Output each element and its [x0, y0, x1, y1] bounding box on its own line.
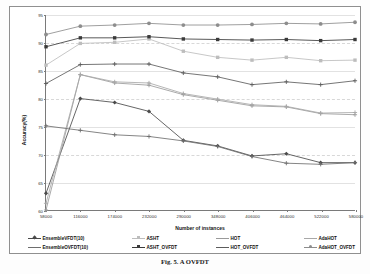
- data-point: [250, 154, 254, 158]
- x-tick-mark: [218, 210, 219, 212]
- data-point: [250, 23, 254, 27]
- data-point: [147, 35, 150, 38]
- legend-marker-icon: [28, 244, 41, 250]
- data-point: [319, 59, 322, 62]
- chart-legend: EnsembleVFDT(10)ASHTHOTAdaHOTEnsembleOVF…: [28, 235, 364, 253]
- x-tick-label: 116000: [73, 214, 87, 219]
- legend-item-ensemblevfdt-10[interactable]: EnsembleVFDT(10): [28, 235, 132, 241]
- legend-item-adahot-ovfdt[interactable]: AdaHOT_OVFDT: [304, 244, 364, 250]
- legend-item-hot[interactable]: HOT: [216, 235, 304, 241]
- series-2: [44, 73, 357, 213]
- data-point: [182, 37, 185, 40]
- data-point: [285, 38, 288, 41]
- data-point: [113, 23, 117, 27]
- data-point: [79, 36, 82, 39]
- data-point: [44, 81, 48, 85]
- x-tick-label: 174000: [108, 214, 123, 219]
- y-tick-label: 65: [38, 181, 43, 186]
- x-tick-label: 348000: [211, 214, 226, 219]
- data-point: [181, 71, 185, 75]
- data-point: [319, 111, 323, 115]
- legend-label: EnsembleOVFDT(10): [43, 245, 88, 250]
- plot-area: 9590858075706560 58000116000174000232000…: [45, 15, 355, 211]
- legend-marker-icon: [304, 244, 317, 250]
- series-line: [46, 22, 355, 34]
- x-tick-label: 406000: [245, 214, 260, 219]
- data-point: [284, 80, 288, 84]
- x-tick-mark: [322, 210, 323, 212]
- data-point: [250, 38, 253, 41]
- data-point: [216, 75, 220, 79]
- x-tick-label: 58000: [40, 214, 52, 219]
- data-point: [147, 62, 151, 66]
- data-point: [353, 20, 357, 24]
- data-point: [113, 62, 117, 66]
- legend-marker-icon: [216, 235, 229, 241]
- data-point: [319, 39, 322, 42]
- data-point: [113, 41, 116, 44]
- data-point: [353, 161, 357, 165]
- data-point: [147, 81, 151, 85]
- data-point: [113, 133, 117, 137]
- data-point: [353, 79, 357, 83]
- legend-marker-icon: [28, 235, 41, 241]
- legend-item-asht-ovfdt[interactable]: ASHT_OVFDT: [132, 244, 216, 250]
- data-point: [113, 36, 116, 39]
- data-point: [284, 21, 288, 25]
- y-axis-title: Accuracy(%): [21, 115, 27, 145]
- legend-item-asht[interactable]: ASHT: [132, 235, 216, 241]
- data-point: [353, 38, 356, 41]
- y-tick-label: 90: [38, 41, 43, 46]
- series-line: [46, 126, 355, 164]
- data-point: [147, 21, 151, 25]
- x-tick-mark: [287, 210, 288, 212]
- data-point: [44, 191, 48, 195]
- y-tick-label: 80: [38, 97, 43, 102]
- figure-container: Accuracy(%) 9590858075706560 58000116000…: [0, 0, 370, 274]
- data-point: [285, 56, 288, 59]
- y-tick-label: 70: [38, 153, 43, 158]
- data-point: [181, 23, 185, 27]
- x-tick-label: 290000: [176, 214, 191, 219]
- legend-marker-icon: [132, 235, 145, 241]
- x-tick-mark: [253, 210, 254, 212]
- series-line: [46, 75, 355, 210]
- data-point: [78, 62, 82, 66]
- data-point: [79, 42, 82, 45]
- legend-label: AdaHOT: [319, 236, 337, 241]
- series-lines: [46, 15, 355, 210]
- legend-label: EnsembleVFDT(10): [43, 236, 85, 241]
- series-line: [46, 75, 355, 204]
- legend-marker-icon: [216, 244, 229, 250]
- legend-item-adahot[interactable]: AdaHOT: [304, 235, 364, 241]
- data-point: [78, 73, 82, 77]
- data-point: [353, 58, 356, 61]
- series-line: [46, 99, 355, 194]
- data-point: [250, 83, 254, 87]
- x-tick-mark: [115, 210, 116, 212]
- data-point: [284, 104, 288, 108]
- series-1: [44, 37, 356, 67]
- legend-row: EnsembleOVFDT(10)ASHT_OVFDTHOT_OVFDTAdaH…: [28, 244, 364, 250]
- data-point: [216, 144, 220, 148]
- series-6: [44, 62, 357, 87]
- legend-label: AdaHOT_OVFDT: [319, 245, 356, 250]
- legend-item-hot-ovfdt[interactable]: HOT_OVFDT: [216, 244, 304, 250]
- x-tick-label: 580000: [349, 214, 364, 219]
- x-axis-title: Number of instances: [45, 225, 355, 231]
- y-tick-label: 95: [38, 13, 43, 18]
- data-point: [216, 38, 219, 41]
- legend-marker-icon: [132, 244, 145, 250]
- data-point: [216, 56, 219, 59]
- legend-item-ensembleovfdt-10[interactable]: EnsembleOVFDT(10): [28, 244, 132, 250]
- data-point: [147, 134, 151, 138]
- data-point: [44, 63, 47, 66]
- data-point: [250, 58, 253, 61]
- y-tick-label: 85: [38, 69, 43, 74]
- data-point: [284, 152, 288, 156]
- data-point: [44, 45, 47, 48]
- x-tick-label: 522000: [314, 214, 329, 219]
- data-point: [44, 33, 48, 37]
- series-line: [46, 39, 355, 65]
- x-tick-mark: [356, 210, 357, 212]
